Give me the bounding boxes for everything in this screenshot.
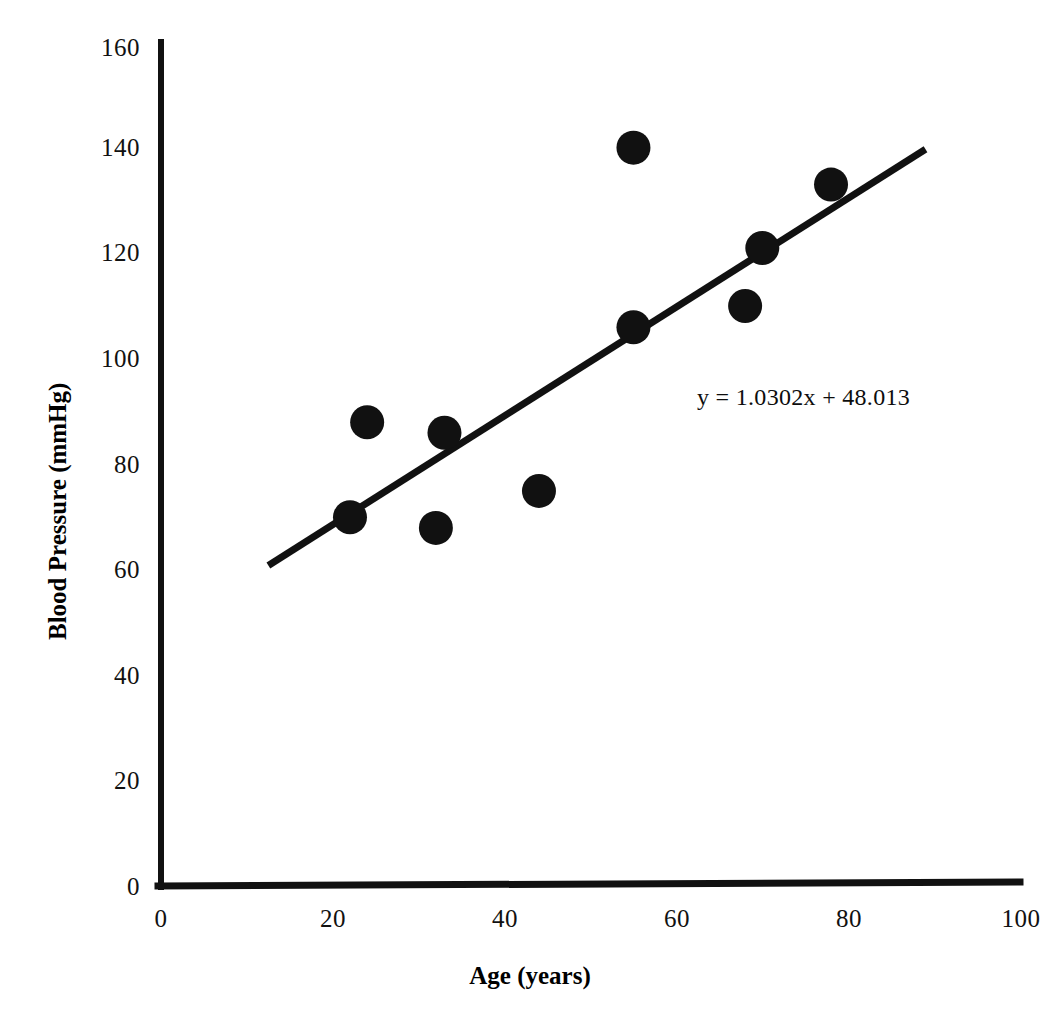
x-tick-label: 20: [320, 905, 346, 933]
x-axis-line: [158, 882, 1020, 886]
x-tick-label: 40: [492, 905, 518, 933]
data-point[interactable]: [728, 289, 762, 323]
y-tick-label: 140: [40, 134, 140, 162]
data-point[interactable]: [350, 405, 384, 439]
data-point[interactable]: [745, 231, 779, 265]
trendline: [268, 149, 925, 565]
data-point[interactable]: [419, 511, 453, 545]
y-tick-label: 20: [40, 767, 140, 795]
data-point[interactable]: [616, 310, 650, 344]
data-point-group: [333, 131, 848, 545]
y-tick-label: 160: [40, 34, 140, 62]
x-tick-label: 80: [836, 905, 862, 933]
scatter-chart: 0 20 40 60 80 100 120 140 160 0 20 40 60…: [0, 0, 1044, 1026]
plot-area: [0, 0, 1044, 1026]
x-tick-label: 60: [664, 905, 690, 933]
data-point[interactable]: [522, 474, 556, 508]
data-point[interactable]: [427, 416, 461, 450]
y-tick-label: 120: [40, 239, 140, 267]
data-point[interactable]: [616, 131, 650, 165]
y-tick-label: 100: [40, 345, 140, 373]
x-tick-label: 0: [155, 905, 168, 933]
y-tick-label: 40: [40, 662, 140, 690]
data-point[interactable]: [333, 500, 367, 534]
trendline-equation-label: y = 1.0302x + 48.013: [697, 384, 910, 411]
y-axis-title: Blood Pressure (mmHg): [44, 383, 72, 640]
x-axis-title: Age (years): [8, 962, 1044, 990]
y-tick-label: 0: [40, 873, 140, 901]
data-point[interactable]: [814, 168, 848, 202]
x-tick-label: 100: [1002, 905, 1041, 933]
